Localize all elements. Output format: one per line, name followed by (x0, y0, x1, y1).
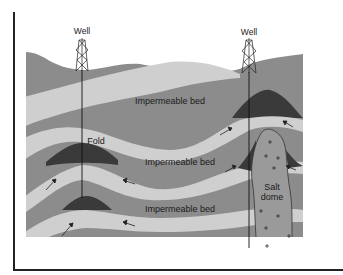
well-label-1: Well (74, 26, 90, 36)
salt-dome-label-line2: dome (261, 192, 284, 202)
rock-layers (20, 40, 310, 255)
fold-label: Fold (87, 136, 105, 146)
cross-section-diagram: Well Well Impermeable bed Fold Impermeab… (0, 0, 343, 275)
salt-dome-label-line1: Salt (264, 182, 280, 192)
impermeable-bed-label-middle: Impermeable bed (145, 157, 215, 167)
impermeable-bed-label-bottom: Impermeable bed (145, 204, 215, 214)
impermeable-bed-label-top: Impermeable bed (135, 96, 205, 106)
well-label-2: Well (241, 27, 257, 37)
